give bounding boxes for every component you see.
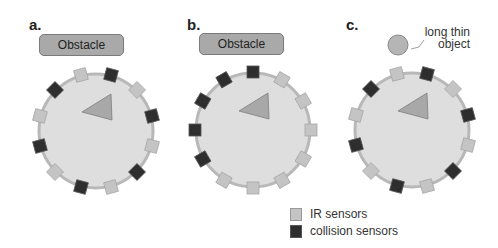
ir-sensor-icon [145, 139, 160, 154]
legend-ir: IR sensors [290, 207, 367, 221]
ir-sensor-icon [420, 179, 435, 194]
ir-sensor-icon [104, 180, 119, 195]
ir-sensor-icon [305, 124, 317, 136]
ir-sensor-icon [33, 109, 48, 124]
ir-sensor-icon [461, 138, 476, 153]
legend-collision-label: collision sensors [310, 224, 398, 238]
ir-sensor-icon [74, 68, 89, 83]
collision-sensor-icon [390, 179, 405, 194]
collision-sensor-icon [461, 108, 476, 123]
collision-sensor-swatch [290, 225, 302, 238]
collision-sensor-icon [145, 109, 160, 124]
collision-sensor-icon [349, 138, 364, 153]
robot-a [33, 68, 160, 195]
robot-b [189, 66, 317, 194]
ir-sensor-icon [390, 67, 405, 82]
robot-body [196, 73, 310, 187]
legend-collision: collision sensors [290, 224, 398, 238]
collision-sensor-icon [74, 180, 89, 195]
long-thin-object-icon [388, 35, 408, 55]
collision-sensor-icon [420, 67, 435, 82]
legend-ir-label: IR sensors [310, 207, 367, 221]
robot-c [349, 67, 476, 194]
collision-sensor-icon [33, 139, 48, 154]
ir-sensor-icon [349, 108, 364, 123]
object-label: long thin object [410, 26, 470, 50]
ir-sensor-icon [247, 182, 259, 194]
collision-sensor-icon [247, 66, 259, 78]
collision-sensor-icon [189, 124, 201, 136]
ir-sensor-swatch [290, 208, 302, 221]
collision-sensor-icon [104, 68, 119, 83]
